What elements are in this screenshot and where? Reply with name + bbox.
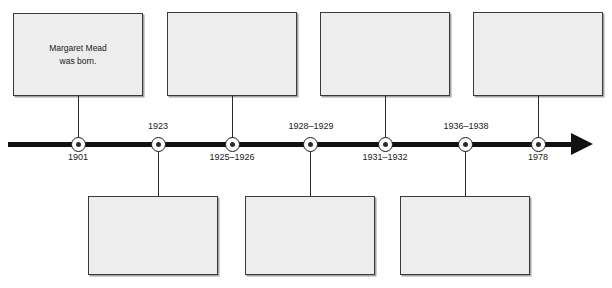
event-box-above-1925-1926[interactable] xyxy=(167,12,297,96)
circle-dot-marker-icon xyxy=(156,142,161,147)
date-label-1925-1926: 1925–1926 xyxy=(209,152,254,162)
timeline-diagram: Margaret Mead was born. xyxy=(0,0,612,288)
event-box-text: Margaret Mead was born. xyxy=(43,42,113,67)
connector-stem-1978 xyxy=(538,96,540,140)
date-label-1923: 1923 xyxy=(148,121,168,131)
date-label-1978: 1978 xyxy=(528,152,548,162)
arrow-right-icon xyxy=(571,133,593,155)
timeline-marker-1931-1932[interactable] xyxy=(378,137,393,152)
connector-stem-1923 xyxy=(158,148,160,196)
connector-stem-1928-1929 xyxy=(310,148,312,196)
timeline-marker-1978[interactable] xyxy=(531,137,546,152)
circle-dot-marker-icon xyxy=(230,142,235,147)
timeline-marker-1936-1938[interactable] xyxy=(458,137,473,152)
event-box-below-1936-1938[interactable] xyxy=(400,196,530,275)
circle-dot-marker-icon xyxy=(536,142,541,147)
timeline-axis xyxy=(8,142,573,147)
timeline-marker-1923[interactable] xyxy=(151,137,166,152)
date-label-1928-1929: 1928–1929 xyxy=(288,121,333,131)
circle-dot-marker-icon xyxy=(76,142,81,147)
circle-dot-marker-icon xyxy=(463,142,468,147)
circle-dot-marker-icon xyxy=(383,142,388,147)
date-label-1931-1932: 1931–1932 xyxy=(362,152,407,162)
timeline-marker-1901[interactable] xyxy=(71,137,86,152)
timeline-marker-1928-1929[interactable] xyxy=(303,137,318,152)
connector-stem-1925-1926 xyxy=(232,96,234,140)
circle-dot-marker-icon xyxy=(308,142,313,147)
timeline-marker-1925-1926[interactable] xyxy=(225,137,240,152)
connector-stem-1936-1938 xyxy=(465,148,467,196)
date-label-1901: 1901 xyxy=(68,152,88,162)
event-box-above-1931-1932[interactable] xyxy=(320,12,450,96)
event-box-above-1978[interactable] xyxy=(473,12,603,96)
date-label-1936-1938: 1936–1938 xyxy=(443,121,488,131)
connector-stem-1901 xyxy=(78,96,80,140)
connector-stem-1931-1932 xyxy=(385,96,387,140)
event-box-below-1928-1929[interactable] xyxy=(245,196,375,275)
event-box-above-1901[interactable]: Margaret Mead was born. xyxy=(13,13,143,96)
event-box-below-1923[interactable] xyxy=(88,196,218,275)
